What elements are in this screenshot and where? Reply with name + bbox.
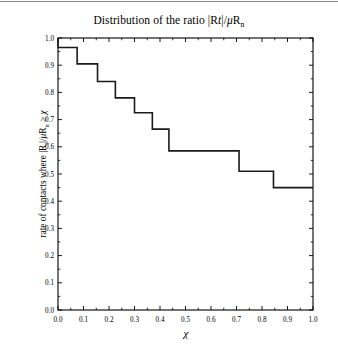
y-tick-label: 0.9: [45, 62, 54, 70]
y-tick-label: 0.3: [45, 225, 54, 233]
x-axis-ticks: [58, 38, 313, 310]
x-tick-label: 1.0: [309, 316, 318, 324]
x-tick-label: 0.7: [232, 316, 241, 324]
x-tick-label: 0.9: [283, 316, 292, 324]
x-axis-tick-labels: 0.00.10.20.30.40.50.60.70.80.91.0: [54, 316, 318, 324]
x-tick-label: 0.6: [207, 316, 216, 324]
x-tick-label: 0.3: [130, 316, 139, 324]
x-tick-label: 0.1: [79, 316, 88, 324]
y-axis-tick-labels: 0.00.10.20.30.40.50.60.70.80.91.0: [45, 35, 54, 315]
x-tick-label: 0.5: [181, 316, 190, 324]
plot-frame: [58, 38, 313, 310]
y-axis-ticks: [58, 38, 313, 310]
y-tick-label: 0.2: [45, 252, 54, 260]
y-tick-label: 1.0: [45, 35, 54, 43]
y-tick-label: 0.1: [45, 279, 54, 287]
y-tick-label: 0.7: [45, 116, 54, 124]
y-tick-label: 0.0: [45, 307, 54, 315]
x-tick-label: 0.2: [105, 316, 114, 324]
step-curve: [58, 38, 313, 188]
x-tick-label: 0.4: [156, 316, 165, 324]
x-tick-label: 0.8: [258, 316, 267, 324]
y-tick-label: 0.8: [45, 89, 54, 97]
x-tick-label: 0.0: [54, 316, 63, 324]
y-tick-label: 0.6: [45, 143, 54, 151]
y-tick-label: 0.5: [45, 171, 54, 179]
plot-area: 0.00.10.20.30.40.50.60.70.80.91.0 0.00.1…: [0, 0, 338, 352]
y-tick-label: 0.4: [45, 198, 54, 206]
figure-canvas: Distribution of the ratio |Rt|/μRn rate …: [0, 0, 338, 352]
